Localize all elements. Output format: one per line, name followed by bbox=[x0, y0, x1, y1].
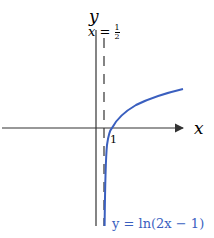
x-axis-label: x bbox=[194, 118, 204, 138]
fraction-one-half: 1 2 bbox=[115, 24, 120, 41]
asymptote-label: x = 1 2 bbox=[88, 24, 120, 41]
curve-equation-label: y = ln(2x − 1) bbox=[112, 216, 204, 231]
x-intercept-label: 1 bbox=[110, 133, 117, 146]
y-axis-label: y bbox=[89, 6, 99, 26]
log-curve bbox=[105, 89, 183, 226]
